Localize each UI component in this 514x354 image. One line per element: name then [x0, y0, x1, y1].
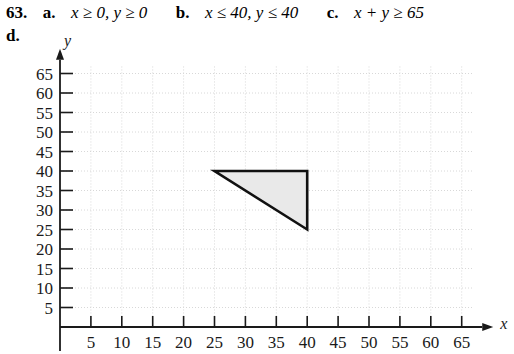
- y-axis-tick-label: 35: [36, 182, 53, 201]
- part-a-expression: x ≥ 0, y ≥ 0: [71, 3, 147, 22]
- exercise-number: 63.: [6, 3, 27, 22]
- x-axis-tick-label: 5: [87, 333, 96, 352]
- y-axis-tick-label: 40: [36, 162, 53, 181]
- y-axis-tick-label: 30: [36, 201, 53, 220]
- y-axis-tick-label: 15: [36, 260, 53, 279]
- graph-svg: 5101520253035404550556065510152025303540…: [0, 24, 514, 354]
- y-axis-label: y: [62, 32, 72, 50]
- part-c-letter: c.: [327, 3, 339, 22]
- part-c-expression: x + y ≥ 65: [354, 3, 424, 22]
- y-axis-tick-label: 55: [36, 104, 53, 123]
- exercise-answer-line: 63. a. x ≥ 0, y ≥ 0 b. x ≤ 40, y ≤ 40 c.…: [6, 2, 424, 24]
- feasible-region-graph: 5101520253035404550556065510152025303540…: [0, 24, 514, 354]
- x-axis-tick-label: 25: [206, 333, 223, 352]
- x-axis-tick-label: 35: [268, 333, 285, 352]
- x-axis-tick-label: 45: [330, 333, 347, 352]
- y-axis-tick-label: 20: [36, 240, 53, 259]
- y-axis-tick-label: 60: [36, 84, 53, 103]
- x-axis-tick-label: 30: [237, 333, 254, 352]
- shaded-regions: [215, 171, 308, 230]
- x-axis-arrow-icon: [482, 323, 493, 331]
- x-axis-tick-label: 60: [422, 333, 439, 352]
- x-axis-tick-label: 10: [113, 333, 130, 352]
- part-a-letter: a.: [43, 3, 56, 22]
- y-axis-tick-label: 25: [36, 221, 53, 240]
- y-axis-tick-label: 10: [36, 279, 53, 298]
- x-axis-tick-label: 40: [299, 333, 316, 352]
- x-axis-tick-label: 50: [361, 333, 378, 352]
- x-axis-tick-label: 20: [175, 333, 192, 352]
- y-axis-arrow-icon: [56, 49, 64, 60]
- x-axis-tick-label: 55: [391, 333, 408, 352]
- y-axis-tick-label: 5: [45, 299, 54, 318]
- x-axis-tick-label: 15: [144, 333, 161, 352]
- part-b-expression: x ≤ 40, y ≤ 40: [205, 3, 298, 22]
- y-axis-tick-label: 45: [36, 143, 53, 162]
- part-b-letter: b.: [176, 3, 190, 22]
- y-axis-tick-label: 65: [36, 65, 53, 84]
- feasible-region: [215, 171, 308, 230]
- y-axis-tick-label: 50: [36, 123, 53, 142]
- x-axis-label: x: [499, 315, 507, 332]
- x-axis-tick-label: 65: [453, 333, 470, 352]
